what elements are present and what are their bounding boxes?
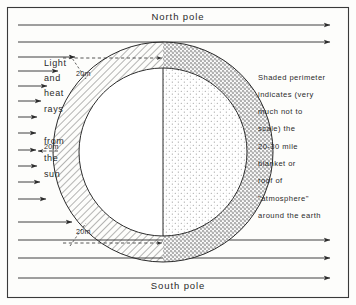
- sun-caption-line-5: from: [44, 136, 64, 146]
- annotation-line-5: 20-30 mile: [258, 142, 298, 151]
- sun-caption-line-4: rays: [44, 104, 63, 114]
- sun-caption-line-2: and: [44, 73, 61, 83]
- north-pole-label: North pole: [152, 11, 205, 22]
- south-pole-label: South pole: [151, 280, 205, 291]
- annotation-line-7: roof of: [258, 176, 283, 185]
- annotation-line-1: Shaded perimeter: [258, 73, 326, 82]
- annotation-line-3: much not to: [258, 107, 303, 116]
- annotation-line-6: blanket or: [258, 159, 296, 168]
- annotation-line-2: indicates (very: [258, 90, 314, 99]
- sun-caption-line-7: sun: [44, 169, 60, 179]
- dimension-label-lower: 20m: [76, 227, 91, 236]
- annotation-line-9: around the earth: [258, 211, 321, 220]
- sun-caption-line-6: the: [44, 153, 58, 163]
- sun-caption-line-1: Light: [44, 58, 67, 68]
- diagram-canvas: 20m 20m 20m North pole South pole Light …: [0, 0, 356, 305]
- annotation-line-4: scale) the: [258, 124, 295, 133]
- sun-caption-line-3: heat: [44, 88, 64, 98]
- annotation-line-8: "atmosphere": [258, 194, 309, 203]
- dimension-label-upper: 20m: [76, 69, 91, 78]
- diagram-figure: 20m 20m 20m North pole South pole Light …: [0, 0, 356, 305]
